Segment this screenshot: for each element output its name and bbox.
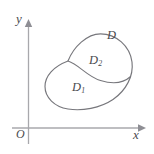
math-figure: y x O D D2 D1 [0,0,154,154]
region-d1-label-subscript: 1 [81,86,85,95]
y-axis-label: y [16,12,22,25]
region-d2-label-base: D [89,53,98,67]
region-d-label: D [107,29,116,42]
region-d-outline [45,34,132,110]
region-d1-label-base: D [72,80,81,94]
x-axis-arrowhead [138,124,146,132]
region-d2-label: D2 [89,54,102,67]
region-d1-label: D1 [72,81,85,94]
y-axis-arrowhead [25,19,32,27]
origin-label: O [16,128,25,140]
x-axis-label: x [133,128,139,141]
region-d2-label-subscript: 2 [98,59,102,68]
